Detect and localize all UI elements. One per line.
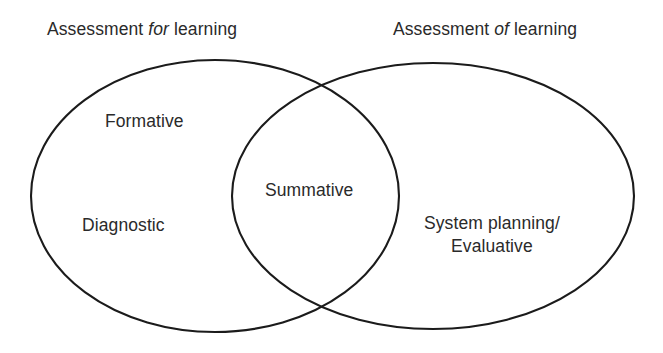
label-system-planning-evaluative: System planning/ Evaluative (424, 212, 560, 258)
venn-diagram-canvas (0, 0, 663, 353)
right-header-prefix: Assessment (393, 19, 494, 39)
right-set-header: Assessment of learning (393, 19, 577, 40)
left-header-emphasis: for (148, 19, 169, 39)
left-set-header: Assessment for learning (47, 19, 237, 40)
label-formative: Formative (105, 110, 184, 133)
left-header-prefix: Assessment (47, 19, 148, 39)
right-header-emphasis: of (494, 19, 509, 39)
system-planning-line-1: System planning/ (424, 212, 560, 235)
venn-diagram-page: Assessment for learning Assessment of le… (0, 0, 663, 353)
right-header-suffix: learning (509, 19, 577, 39)
label-diagnostic: Diagnostic (82, 214, 165, 237)
left-header-suffix: learning (169, 19, 237, 39)
label-summative: Summative (265, 179, 353, 202)
system-planning-line-2: Evaluative (424, 235, 560, 258)
